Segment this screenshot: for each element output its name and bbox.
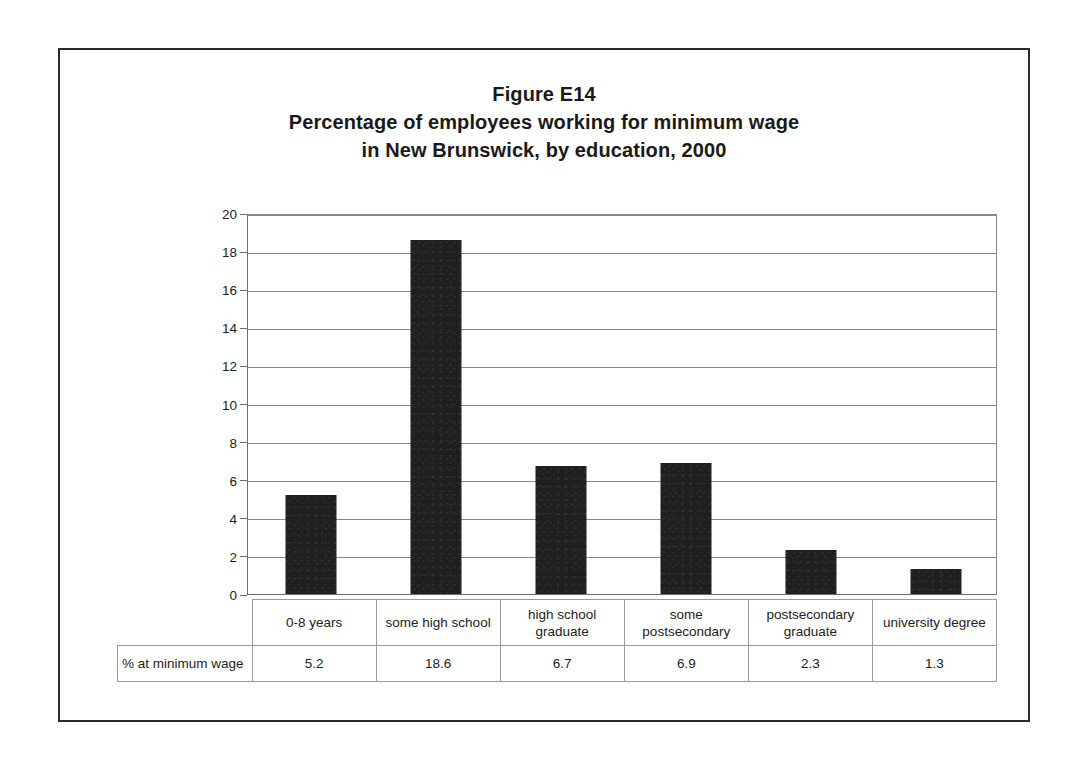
category-label-line: some high school <box>379 614 498 631</box>
y-tick-label-2: 2 <box>229 549 237 564</box>
title-line-1: Figure E14 <box>60 80 1028 108</box>
category-cell: 0-8 years <box>252 600 376 646</box>
y-tick-mark-0 <box>240 595 247 596</box>
y-tick-mark-16 <box>240 290 247 291</box>
data-value-cell: 5.2 <box>252 646 376 682</box>
data-table-row-header: % at minimum wage <box>118 646 253 682</box>
y-tick-mark-12 <box>240 366 247 367</box>
category-cell: postsecondarygraduate <box>748 600 872 646</box>
table-row-values: % at minimum wage5.218.66.76.92.31.3 <box>118 646 997 682</box>
bar <box>285 495 336 594</box>
y-tick-label-6: 6 <box>229 473 237 488</box>
y-tick-label-12: 12 <box>222 359 237 374</box>
bar-slot <box>873 215 997 594</box>
y-tick-mark-6 <box>240 480 247 481</box>
category-label-line: high school <box>503 606 622 623</box>
bar-chart: 02468101214161820 <box>247 214 997 595</box>
bar <box>410 240 461 594</box>
category-label-line: graduate <box>751 623 870 640</box>
table-row-categories: 0-8 yearssome high schoolhigh schoolgrad… <box>118 600 997 646</box>
bar-slot <box>373 215 498 594</box>
y-tick-mark-4 <box>240 518 247 519</box>
category-label-line: postsecondary <box>627 623 746 640</box>
category-cell: some high school <box>376 600 500 646</box>
category-cell: high schoolgraduate <box>500 600 624 646</box>
y-tick-label-10: 10 <box>222 397 237 412</box>
bar-slot <box>623 215 748 594</box>
data-value-cell: 6.7 <box>500 646 624 682</box>
category-label-line: postsecondary <box>751 606 870 623</box>
y-tick-mark-8 <box>240 442 247 443</box>
bar <box>785 550 836 594</box>
y-tick-label-4: 4 <box>229 511 237 526</box>
category-cell: university degree <box>872 600 996 646</box>
table-corner-blank <box>118 600 253 646</box>
data-value-cell: 1.3 <box>872 646 996 682</box>
bars-group <box>248 215 996 594</box>
title-line-3: in New Brunswick, by education, 2000 <box>60 136 1028 164</box>
bar <box>910 569 961 594</box>
category-label-line: graduate <box>503 623 622 640</box>
y-tick-mark-2 <box>240 556 247 557</box>
figure-title: Figure E14 Percentage of employees worki… <box>60 80 1028 164</box>
y-tick-label-20: 20 <box>222 207 237 222</box>
bar-slot <box>248 215 373 594</box>
category-label-line: some <box>627 606 746 623</box>
data-table: 0-8 yearssome high schoolhigh schoolgrad… <box>117 599 997 682</box>
y-tick-mark-20 <box>240 214 247 215</box>
title-line-2: Percentage of employees working for mini… <box>60 108 1028 136</box>
category-label-line: university degree <box>875 614 994 631</box>
category-label-line: 0-8 years <box>255 614 374 631</box>
y-tick-mark-14 <box>240 328 247 329</box>
plot-area <box>247 214 997 595</box>
data-value-cell: 6.9 <box>624 646 748 682</box>
y-tick-label-18: 18 <box>222 245 237 260</box>
y-axis-tick-labels: 02468101214161820 <box>195 214 237 595</box>
figure-frame: Figure E14 Percentage of employees worki… <box>58 48 1030 722</box>
y-tick-mark-18 <box>240 252 247 253</box>
y-tick-label-16: 16 <box>222 283 237 298</box>
data-value-cell: 18.6 <box>376 646 500 682</box>
bar-slot <box>498 215 623 594</box>
category-cell: somepostsecondary <box>624 600 748 646</box>
y-tick-label-14: 14 <box>222 321 237 336</box>
data-value-cell: 2.3 <box>748 646 872 682</box>
bar <box>535 466 586 594</box>
y-tick-mark-10 <box>240 404 247 405</box>
bar-slot <box>748 215 873 594</box>
bar <box>660 463 711 594</box>
y-tick-label-8: 8 <box>229 435 237 450</box>
